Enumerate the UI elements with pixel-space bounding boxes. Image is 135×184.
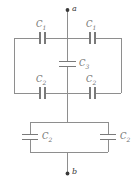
circuit-schematic-canvas [0,0,135,184]
capacitor-network-diagram: a b C1 C1 C3 C2 C2 C2 C2 [0,0,135,184]
cap-bridge-label: C3 [79,59,89,70]
cap-top-right-label: C1 [86,20,96,31]
terminal-b-dot [66,172,70,176]
cap-top-right-label-sub: 1 [93,24,97,31]
terminal-a-label: a [72,5,77,13]
cap-top-left-label-sub: 1 [43,24,47,31]
cap-top-left-label: C1 [36,20,46,31]
cap-bottom-left-label: C2 [42,132,52,143]
cap-middle-right-label-sub: 2 [93,79,97,86]
terminal-b-label: b [72,168,77,176]
cap-bridge-label-sub: 3 [86,63,90,70]
cap-middle-right-label: C2 [86,75,96,86]
terminal-a-dot [66,8,70,12]
cap-bottom-left-label-sub: 2 [49,136,53,143]
cap-middle-left-label: C2 [36,75,46,86]
cap-middle-left-label-sub: 2 [43,79,47,86]
cap-bottom-right-label-sub: 2 [127,136,131,143]
cap-bottom-right-label: C2 [120,132,130,143]
